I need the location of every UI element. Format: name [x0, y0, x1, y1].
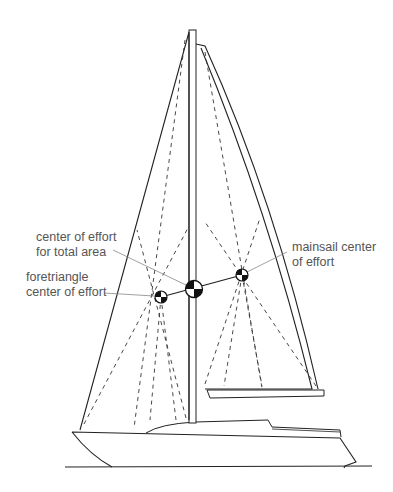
mainsail-ce-marker — [236, 269, 248, 281]
label-mainsail-ce-line2: of effort — [292, 255, 376, 270]
label-foretriangle-ce-line1: foretriangle — [26, 270, 106, 285]
hull — [72, 432, 356, 468]
label-total-ce-line1: center of effort — [36, 230, 116, 245]
boom — [207, 390, 324, 398]
label-total-ce-line2: for total area — [36, 245, 116, 260]
label-foretriangle-ce-line2: center of effort — [26, 285, 106, 300]
label-mainsail-ce-line1: mainsail center — [292, 240, 376, 255]
label-foretriangle-ce: foretriangle center of effort — [26, 270, 106, 300]
total-ce-marker — [186, 281, 203, 298]
label-mainsail-ce: mainsail center of effort — [292, 240, 376, 270]
mast — [189, 30, 196, 423]
foretriangle-ce-marker — [155, 291, 167, 303]
mainsail — [196, 44, 318, 389]
label-total-ce: center of effort for total area — [36, 230, 116, 260]
leader-foretriangle — [104, 293, 154, 296]
leader-mainsail — [247, 252, 287, 272]
